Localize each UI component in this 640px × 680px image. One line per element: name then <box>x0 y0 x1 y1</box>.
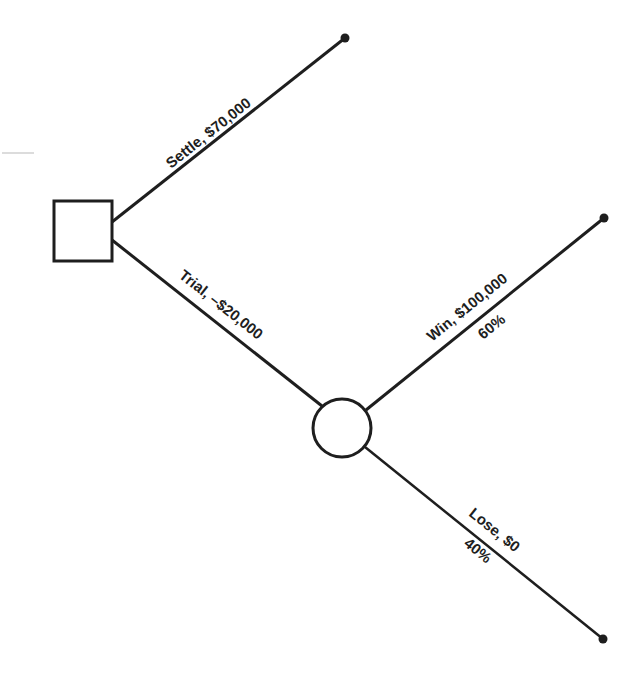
branch-trial: Trial, –$20,000 <box>112 240 322 406</box>
settle-label: Settle, $70,000 <box>162 94 254 171</box>
terminal-node-settle <box>341 34 350 43</box>
terminal-node-win <box>600 214 609 223</box>
decision-tree-diagram: Settle, $70,000 Trial, –$20,000 Win, $10… <box>0 0 640 680</box>
decision-node-square <box>54 201 112 261</box>
lose-probability: 40% <box>461 534 495 566</box>
win-probability: 60% <box>474 310 508 342</box>
chance-node-circle <box>313 399 371 457</box>
terminal-node-lose <box>599 635 608 644</box>
win-label: Win, $100,000 <box>423 269 510 344</box>
branch-win: Win, $100,000 60% <box>366 214 609 411</box>
trial-label: Trial, –$20,000 <box>176 266 266 342</box>
branch-lose: Lose, $0 40% <box>365 447 608 644</box>
branch-settle: Settle, $70,000 <box>112 34 350 223</box>
